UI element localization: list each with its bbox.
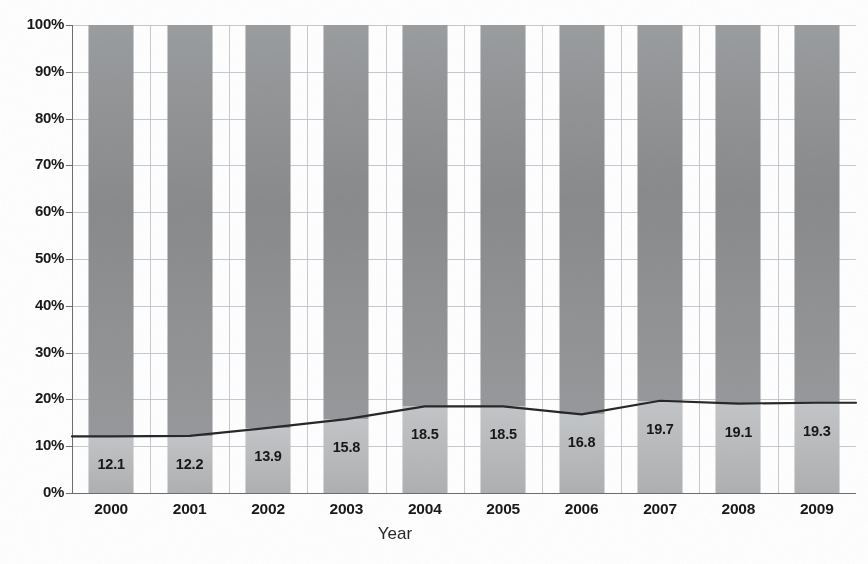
x-axis-line: [72, 493, 856, 494]
x-axis-tick-label: 2003: [307, 500, 385, 518]
y-axis-tick-label: 90%: [4, 62, 64, 79]
y-axis-tick-label: 20%: [4, 389, 64, 406]
x-axis-tick-label: 2005: [464, 500, 542, 518]
x-axis-tick-labels: 2000200120022003200420052006200720082009: [72, 500, 856, 522]
x-axis-tick-label: 2004: [386, 500, 464, 518]
x-axis-tick-label: 2008: [699, 500, 777, 518]
plot-area: 12.112.213.915.818.518.516.819.719.119.3: [72, 25, 856, 493]
y-axis-tick-label: 30%: [4, 343, 64, 360]
y-axis-tick-labels: 0%10%20%30%40%50%60%70%80%90%100%: [0, 25, 64, 493]
x-axis-tick-label: 2002: [229, 500, 307, 518]
y-axis-tick-label: 0%: [4, 483, 64, 500]
figure-caption: [0, 556, 868, 564]
y-axis-tick-label: 80%: [4, 109, 64, 126]
figure-stacked-bar-chart: 0%10%20%30%40%50%60%70%80%90%100% 12.112…: [0, 0, 868, 564]
x-axis-tick-label: 2007: [621, 500, 699, 518]
trend-line-path: [72, 401, 856, 437]
y-axis-tick-label: 100%: [4, 15, 64, 32]
x-axis-tick-label: 2001: [150, 500, 228, 518]
y-axis-tick-label: 70%: [4, 155, 64, 172]
x-axis-title: Year: [0, 524, 790, 544]
y-axis-tick-label: 40%: [4, 296, 64, 313]
y-axis-tick-label: 10%: [4, 436, 64, 453]
y-axis-tick-mark: [66, 493, 73, 494]
trend-line-series: [72, 25, 856, 493]
y-axis-tick-label: 50%: [4, 249, 64, 266]
x-axis-tick-label: 2009: [778, 500, 856, 518]
y-axis-tick-label: 60%: [4, 202, 64, 219]
x-axis-tick-label: 2000: [72, 500, 150, 518]
x-axis-tick-label: 2006: [542, 500, 620, 518]
